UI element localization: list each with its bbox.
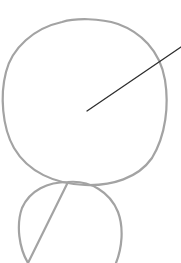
- upper-circle: [3, 19, 167, 185]
- lower-circle: [19, 182, 122, 263]
- sketch-diagram: [0, 0, 181, 263]
